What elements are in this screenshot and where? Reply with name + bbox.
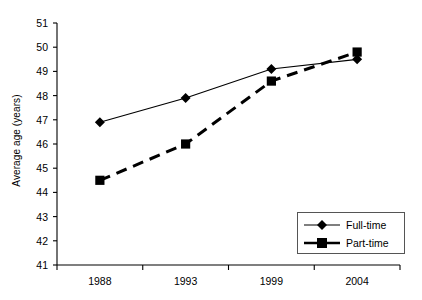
data-point-marker-diamond bbox=[95, 117, 105, 127]
legend-item-part-time: Part-time bbox=[302, 235, 389, 251]
data-point-marker-square bbox=[181, 139, 190, 148]
legend-label-part-time: Part-time bbox=[346, 238, 389, 249]
legend-label-full-time: Full-time bbox=[346, 220, 386, 231]
legend-item-full-time: Full-time bbox=[302, 217, 386, 233]
legend-key-square-icon bbox=[302, 235, 342, 251]
data-point-marker-square bbox=[95, 176, 104, 185]
data-point-marker-diamond bbox=[181, 93, 191, 103]
legend-key-diamond-icon bbox=[302, 217, 342, 233]
line-chart: Average age (years) 41424344454647484950… bbox=[0, 0, 422, 300]
data-point-marker-diamond bbox=[266, 64, 276, 74]
plot-area bbox=[0, 0, 422, 300]
data-point-marker-square bbox=[353, 47, 362, 56]
series-line-part-time bbox=[100, 52, 357, 180]
legend: Full-time Part-time bbox=[297, 212, 405, 254]
data-point-marker-square bbox=[267, 76, 276, 85]
